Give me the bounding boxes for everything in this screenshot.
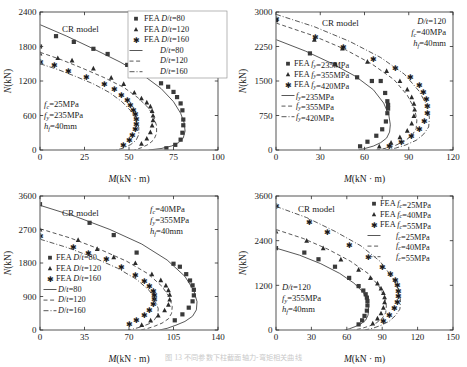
x-tick-label: 150 bbox=[446, 332, 460, 342]
x-tick-label: 140 bbox=[211, 332, 225, 342]
marker-triangle bbox=[139, 141, 144, 146]
legend-item: FEA fc=40MPa bbox=[372, 210, 432, 221]
annotation-2: hf=40mm bbox=[282, 304, 315, 315]
annotation-2: hf=40mm bbox=[413, 38, 446, 49]
marker-triangle bbox=[144, 136, 149, 141]
marker-star: ✱ bbox=[324, 228, 331, 237]
legend-label: D/t=160 bbox=[57, 306, 86, 315]
marker-triangle bbox=[166, 302, 171, 307]
marker-square bbox=[135, 250, 139, 254]
x-tick-label: 60 bbox=[360, 152, 370, 162]
x-tick-label: 50 bbox=[125, 152, 135, 162]
legend-label: FEA D/t=120 bbox=[56, 264, 101, 273]
marker-square bbox=[365, 140, 369, 144]
x-tick-label: 105 bbox=[167, 332, 181, 342]
marker-triangle bbox=[412, 101, 417, 106]
y-tick-label: 0 bbox=[268, 325, 273, 335]
legend-label: fy=355MPa bbox=[296, 101, 334, 112]
marker-triangle bbox=[167, 297, 172, 302]
y-tick-label: 1800 bbox=[19, 42, 38, 52]
legend-label: D/t=80 bbox=[159, 46, 184, 55]
marker-star: ✱ bbox=[83, 73, 90, 82]
y-tick-label: 0 bbox=[32, 145, 37, 155]
marker-square bbox=[54, 34, 58, 38]
marker-triangle bbox=[398, 78, 403, 83]
legend-label: fc=40MPa bbox=[396, 241, 430, 252]
legend-item: fy=235MPa bbox=[282, 91, 335, 102]
marker-triangle bbox=[148, 130, 153, 135]
marker-square bbox=[316, 257, 320, 261]
cr-model-label: CR model bbox=[298, 204, 335, 214]
marker-square bbox=[134, 17, 138, 21]
x-tick-label: 30 bbox=[316, 152, 326, 162]
marker-square bbox=[175, 95, 179, 99]
y-tick-label: 900 bbox=[23, 292, 37, 302]
marker-triangle bbox=[48, 266, 52, 270]
chart-svg: 03060901201500120024003600M(kN · m)N(kN)… bbox=[234, 184, 467, 364]
legend-label: FEA fy=355MPa bbox=[294, 70, 349, 81]
marker-triangle bbox=[409, 121, 414, 126]
y-tick-label: 0 bbox=[32, 325, 37, 335]
marker-star: ✱ bbox=[306, 218, 313, 227]
marker-star: ✱ bbox=[346, 241, 353, 250]
x-tick-label: 35 bbox=[80, 332, 90, 342]
marker-star: ✱ bbox=[365, 253, 372, 262]
marker-triangle bbox=[109, 75, 114, 80]
y-tick-label: 1200 bbox=[255, 281, 274, 291]
y-axis-label: N(kN) bbox=[3, 69, 14, 94]
y-tick-label: 3000 bbox=[255, 7, 274, 17]
x-axis-label: M(kN · m) bbox=[107, 174, 149, 185]
y-tick-label: 2400 bbox=[255, 236, 274, 246]
marker-star: ✱ bbox=[126, 320, 133, 329]
marker-triangle bbox=[384, 68, 389, 73]
marker-triangle bbox=[166, 288, 171, 293]
y-tick-label: 600 bbox=[23, 111, 37, 121]
legend-label: FEA fy=420MPa bbox=[294, 80, 349, 91]
marker-square bbox=[372, 202, 376, 206]
marker-square bbox=[302, 250, 306, 254]
x-tick-label: 0 bbox=[274, 332, 279, 342]
marker-square bbox=[48, 256, 52, 260]
legend-label: FEA fc=55MPa bbox=[380, 220, 431, 231]
chart-panel-top-right: 03060901200750150022503000M(kN · m)N(kN)… bbox=[234, 0, 467, 184]
marker-triangle bbox=[409, 95, 414, 100]
y-tick-label: 1800 bbox=[19, 258, 38, 268]
legend-item: FEA D/t=80 bbox=[48, 253, 97, 262]
marker-square bbox=[187, 306, 191, 310]
marker-square bbox=[171, 262, 175, 266]
marker-square bbox=[362, 314, 366, 318]
chart-panel-top-left: 02550751000600120018002400M(kN · m)N(kN)… bbox=[0, 0, 234, 184]
x-tick-label: 30 bbox=[307, 332, 317, 342]
marker-square bbox=[383, 91, 387, 95]
y-axis-label: N(kN) bbox=[238, 69, 249, 94]
marker-square bbox=[380, 127, 384, 131]
legend-label: FEA fc=40MPa bbox=[380, 210, 431, 221]
legend-label: FEA fy=235MPa bbox=[294, 59, 349, 70]
chart-svg: 03060901200750150022503000M(kN · m)N(kN)… bbox=[234, 0, 467, 184]
marker-triangle bbox=[151, 113, 156, 118]
marker-triangle bbox=[162, 308, 167, 313]
legend-item: ✱FEA fc=55MPa bbox=[371, 220, 432, 231]
marker-star: ✱ bbox=[312, 33, 319, 42]
marker-star: ✱ bbox=[408, 132, 415, 141]
x-tick-label: 90 bbox=[378, 332, 388, 342]
legend-item: ✱FEA fy=420MPa bbox=[285, 80, 350, 91]
y-tick-label: 750 bbox=[259, 111, 273, 121]
marker-square bbox=[358, 144, 362, 148]
marker-square bbox=[166, 85, 170, 89]
x-tick-label: 25 bbox=[80, 152, 90, 162]
legend-item: D/t=120 bbox=[44, 295, 86, 304]
annotation-1: fy=355MPa bbox=[282, 293, 321, 304]
marker-star: ✱ bbox=[141, 311, 148, 320]
marker-triangle bbox=[144, 100, 149, 105]
x-tick-label: 120 bbox=[411, 332, 425, 342]
marker-star: ✱ bbox=[133, 316, 140, 325]
legend-label: fy=235MPa bbox=[296, 91, 334, 102]
chart-svg: 02550751000600120018002400M(kN · m)N(kN)… bbox=[0, 0, 234, 184]
marker-square bbox=[173, 318, 177, 322]
marker-square bbox=[171, 90, 175, 94]
legend-label: fc=25MPa bbox=[396, 231, 430, 242]
legend-item: fc=55MPa bbox=[368, 252, 431, 263]
legend-label: D/t=120 bbox=[57, 295, 86, 304]
legend-item: FEA fy=355MPa bbox=[286, 70, 350, 81]
